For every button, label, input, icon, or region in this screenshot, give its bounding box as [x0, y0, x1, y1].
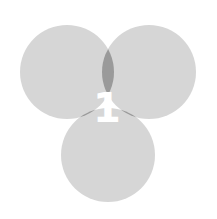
center-label: 1	[93, 85, 121, 131]
venn-diagram: 1	[0, 0, 217, 219]
